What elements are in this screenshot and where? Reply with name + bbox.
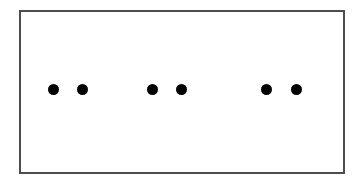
dot-2 xyxy=(77,84,88,95)
figure-canvas xyxy=(0,0,360,184)
dot-1 xyxy=(48,84,59,95)
rectangle-border xyxy=(19,10,345,174)
dot-5 xyxy=(261,84,272,95)
dot-3 xyxy=(147,84,158,95)
dot-6 xyxy=(291,84,302,95)
dot-4 xyxy=(176,84,187,95)
dot-row xyxy=(21,12,343,172)
